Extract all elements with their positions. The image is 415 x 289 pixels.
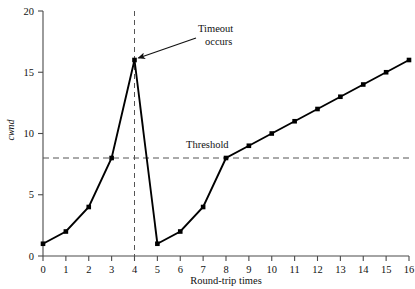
x-tick-label: 6 [178,264,183,275]
data-point-marker [361,82,366,87]
x-tick-label: 9 [246,264,251,275]
x-tick-label: 12 [312,264,323,275]
x-tick-label: 13 [335,264,346,275]
timeout-annotation-line2: occurs [205,36,232,47]
y-tick-label: 10 [24,128,35,139]
y-tick-label: 15 [24,67,35,78]
data-point-marker [64,229,69,234]
x-tick-label: 16 [404,264,415,275]
data-point-marker [247,143,252,148]
x-tick-label: 1 [63,264,68,275]
y-tick-label: 0 [29,251,34,262]
x-tick-label: 4 [132,264,138,275]
data-point-marker [269,131,274,136]
data-point-marker [86,205,91,210]
data-point-marker [201,205,206,210]
data-point-marker [132,58,137,63]
data-point-marker [178,229,183,234]
x-tick-label: 0 [40,264,45,275]
x-tick-label: 10 [267,264,278,275]
data-point-marker [384,70,389,75]
figure-container: 05101520 012345678910111213141516 Timeou… [0,0,415,289]
data-point-marker [338,94,343,99]
x-tick-label: 2 [86,264,91,275]
data-point-marker [315,107,320,112]
data-point-marker [407,58,412,63]
x-tick-label: 14 [358,264,369,275]
x-tick-label: 5 [155,264,160,275]
data-point-marker [109,156,114,161]
x-axis-label: Round-trip times [190,275,261,286]
data-point-marker [41,241,46,246]
x-tick-label: 7 [201,264,206,275]
timeout-annotation-line1: Timeout [198,23,233,34]
y-axis-label: cwnd [5,118,16,140]
x-tick-label: 3 [109,264,114,275]
x-tick-label: 15 [381,264,392,275]
data-point-marker [224,156,229,161]
x-tick-label: 8 [223,264,228,275]
y-tick-label: 20 [24,6,35,17]
data-point-marker [155,241,160,246]
threshold-annotation-label: Threshold [186,139,229,150]
x-tick-label: 11 [290,264,300,275]
chart-canvas: 05101520 012345678910111213141516 Timeou… [0,0,415,289]
y-tick-label: 5 [29,189,34,200]
data-point-marker [292,119,297,124]
